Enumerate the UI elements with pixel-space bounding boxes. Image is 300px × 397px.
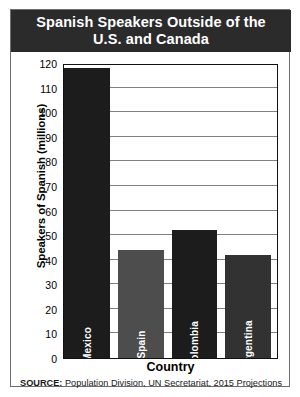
y-axis-tick-label: 120 [39, 58, 57, 70]
source-label: SOURCE: [20, 378, 62, 388]
y-axis-tick-label: 70 [45, 181, 57, 193]
y-axis-tick-label: 30 [45, 279, 57, 291]
bar: Colombia [172, 230, 218, 358]
chart-body: Speakers of Spanish (millions) 010203040… [11, 52, 291, 387]
chart-title: Spanish Speakers Outside of the U.S. and… [30, 14, 272, 48]
chart-title-banner: Spanish Speakers Outside of the U.S. and… [11, 10, 291, 52]
source-note: SOURCE: Population Division, UN Secretar… [11, 378, 291, 388]
bar: Spain [118, 250, 164, 358]
y-axis-tick-label: 110 [40, 83, 57, 95]
y-axis-tick-label: 90 [45, 132, 57, 144]
y-axis-tick-label: 100 [39, 107, 57, 119]
y-axis-tick-label: 20 [45, 304, 57, 316]
bar-label: Colombia [189, 321, 200, 359]
bar-label: Spain [135, 330, 146, 358]
bar-label: Argentina [243, 320, 254, 359]
x-axis-title: Country [63, 360, 278, 374]
y-axis-tick-label: 80 [45, 156, 57, 168]
y-axis-tick-label: 60 [45, 206, 57, 218]
bar-label: Mexico [81, 327, 92, 359]
chart-title-line2: U.S. and Canada [93, 31, 209, 47]
y-axis-tick-label: 10 [45, 328, 57, 340]
y-axis-tick-label: 50 [45, 230, 57, 242]
source-text: Population Division, UN Secretariat, 201… [65, 378, 282, 388]
chart-card: Spanish Speakers Outside of the U.S. and… [10, 9, 290, 387]
y-axis-tick-label: 40 [45, 255, 57, 267]
bar-series: MexicoSpainColombiaArgentina [64, 65, 277, 358]
bar: Mexico [64, 68, 110, 358]
plot-area: MexicoSpainColombiaArgentina [63, 64, 278, 359]
y-axis-tick-label: 0 [51, 353, 57, 365]
chart-title-line1: Spanish Speakers Outside of the [36, 14, 266, 30]
y-axis-tick-labels: 0102030405060708090100110120 [11, 64, 61, 359]
bar: Argentina [225, 255, 271, 358]
